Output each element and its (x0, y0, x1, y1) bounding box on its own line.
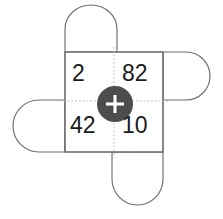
quadrant-value-bottom-left: 42 (70, 114, 96, 137)
quadrant-value-top-right: 82 (122, 62, 148, 85)
net-diagram-figure: 2 82 42 10 (0, 0, 223, 219)
quadrant-value-bottom-right: 10 (122, 114, 148, 137)
net-diagram-canvas (0, 0, 223, 219)
flap-right[interactable] (163, 52, 210, 100)
quadrant-value-top-left: 2 (72, 62, 85, 85)
flap-top[interactable] (65, 5, 117, 52)
flap-left[interactable] (13, 100, 65, 152)
flap-bottom[interactable] (112, 152, 163, 205)
